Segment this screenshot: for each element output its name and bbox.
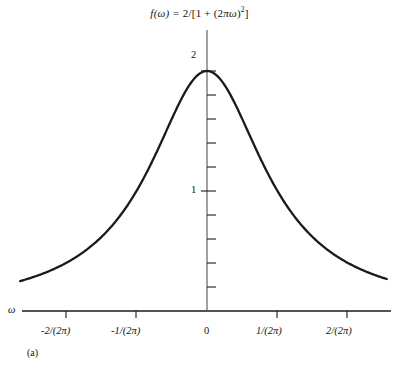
figure-caption: (a): [27, 347, 38, 358]
x-tick-label-zero: 0: [204, 325, 209, 336]
x-tick-label-neg1: -1/(2π): [111, 325, 140, 336]
data-curve: [20, 71, 387, 281]
x-tick-label-neg2: -2/(2π): [41, 325, 70, 336]
figure-panel: f(ω) = 2/[1 + (2πω)2]: [0, 0, 399, 369]
y-tick-label-2: 2: [191, 49, 196, 60]
x-axis-ticks: [66, 311, 347, 318]
x-tick-label-pos1: 1/(2π): [256, 325, 282, 336]
y-tick-label-1: 1: [191, 184, 196, 195]
x-tick-label-pos2: 2/(2π): [326, 325, 352, 336]
chart-canvas: [0, 0, 399, 369]
y-axis-ticks: [201, 71, 216, 287]
x-axis-label: ω: [8, 304, 15, 315]
axes-group: [22, 30, 391, 318]
